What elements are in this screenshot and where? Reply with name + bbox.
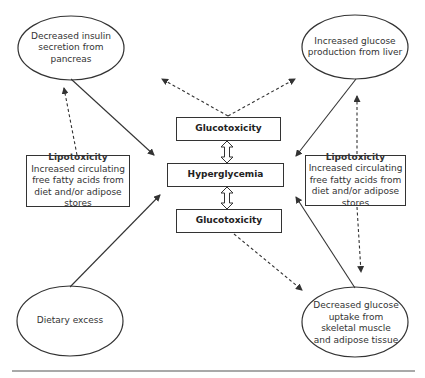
arrow-liver-to-hyperglycemia bbox=[296, 79, 356, 156]
box-glucotoxicity-top: Glucotoxicity bbox=[176, 117, 281, 141]
lipotoxicity-left-body: Increased circulating free fatty acids f… bbox=[29, 164, 127, 210]
arrow-uptake-to-hyperglycemia bbox=[296, 197, 355, 288]
double-arrow-top bbox=[221, 141, 233, 163]
label-glucose-production: Increased glucose production from liver bbox=[306, 27, 404, 67]
lipotoxicity-right-title: Lipotoxicity bbox=[326, 152, 385, 164]
label-glucose-uptake: Decreased glucose uptake from skeletal m… bbox=[313, 295, 399, 351]
arrow-insulin-to-hyperglycemia bbox=[71, 79, 154, 155]
lipotoxicity-left-title: Lipotoxicity bbox=[48, 152, 107, 164]
dashed-arrow-glucotox-to-uptake bbox=[234, 234, 302, 290]
dashed-arrow-glucotox-to-liver bbox=[228, 79, 295, 116]
dashed-arrow-lipotox-right-to-uptake bbox=[357, 207, 361, 272]
dashed-arrow-lipotox-left-to-insulin bbox=[64, 88, 77, 155]
box-lipotoxicity-left: Lipotoxicity Increased circulating free … bbox=[26, 155, 130, 207]
box-lipotoxicity-right: Lipotoxicity Increased circulating free … bbox=[305, 155, 406, 206]
label-insulin-secretion: Decreased insulin secretion from pancrea… bbox=[26, 24, 116, 72]
lipotoxicity-right-body: Increased circulating free fatty acids f… bbox=[308, 163, 403, 209]
dashed-arrow-glucotox-to-insulin bbox=[162, 79, 228, 116]
double-arrow-bottom bbox=[221, 187, 233, 209]
box-hyperglycemia: Hyperglycemia bbox=[167, 163, 284, 187]
box-glucotoxicity-bottom: Glucotoxicity bbox=[176, 209, 282, 233]
label-dietary-excess: Dietary excess bbox=[22, 310, 118, 332]
